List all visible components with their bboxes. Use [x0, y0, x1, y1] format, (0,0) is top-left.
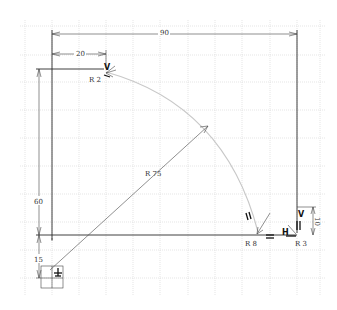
sketch-grid [20, 20, 325, 295]
sketch-geometry[interactable] [36, 30, 297, 270]
radius-3-label: R 3 [295, 240, 307, 248]
dimension-90[interactable]: 90 [52, 28, 297, 37]
radius-8-label: R 8 [245, 240, 257, 248]
vertical-constraint-icon: V [298, 210, 305, 219]
dimension-60[interactable]: 60 [33, 69, 45, 235]
constraint-parallel-right[interactable] [297, 221, 300, 230]
dimension-60-label: 60 [34, 198, 43, 206]
fix-constraint-icon [54, 268, 62, 276]
radius-leader-line[interactable] [50, 126, 208, 270]
sketch-canvas[interactable]: 90 20 60 15 10 R 75 R 2 R 8 R 3 [0, 0, 337, 310]
sketch-origin[interactable] [36, 266, 63, 288]
dimension-15-label: 15 [34, 256, 43, 264]
vertical-constraint-icon: V [104, 63, 111, 72]
dimension-15[interactable]: 15 [33, 235, 45, 278]
dimension-90-label: 90 [160, 29, 169, 37]
constraint-parallel-arc[interactable] [246, 212, 251, 220]
radius-2-label: R 2 [89, 76, 101, 84]
constraint-vertical-right[interactable]: V [298, 210, 305, 219]
dimension-10-label: 10 [313, 217, 321, 226]
radius-75-label: R 75 [145, 170, 161, 178]
large-arc[interactable] [106, 72, 258, 232]
dimension-20-label: 20 [76, 50, 85, 58]
radius-8-leader [257, 213, 270, 234]
